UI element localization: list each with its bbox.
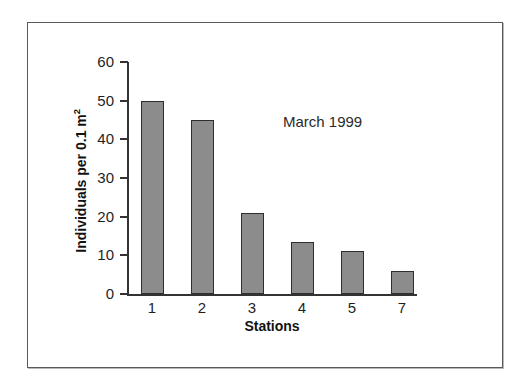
bar (291, 242, 314, 294)
y-axis-tick (120, 293, 128, 295)
x-axis-line (127, 294, 417, 296)
bar (391, 271, 414, 294)
bar-chart-plot-area: 0102030405060 123457 Individuals per 0.1… (0, 0, 528, 389)
y-axis-tick (120, 216, 128, 218)
y-axis-tick (120, 61, 128, 63)
x-axis-tick-label: 5 (332, 300, 372, 316)
y-axis-title-superscript: 2 (71, 109, 82, 114)
y-axis-line (127, 62, 129, 296)
chart-annotation: March 1999 (283, 113, 362, 130)
bar (341, 251, 364, 294)
bar (241, 213, 264, 294)
y-axis-tick (120, 177, 128, 179)
y-axis-tick (120, 254, 128, 256)
bar (191, 120, 214, 294)
y-axis-tick-label: 60 (54, 54, 114, 69)
x-axis-tick-label: 3 (232, 300, 272, 316)
y-axis-tick (120, 138, 128, 140)
x-axis-tick-label: 7 (382, 300, 422, 316)
bar (141, 101, 164, 294)
x-axis-tick-label: 2 (182, 300, 222, 316)
y-axis-tick (120, 100, 128, 102)
x-axis-tick-label: 1 (132, 300, 172, 316)
x-axis-tick-label: 4 (282, 300, 322, 316)
x-axis-title: Stations (127, 318, 417, 334)
y-axis-title: Individuals per 0.1 m2 (71, 71, 89, 291)
